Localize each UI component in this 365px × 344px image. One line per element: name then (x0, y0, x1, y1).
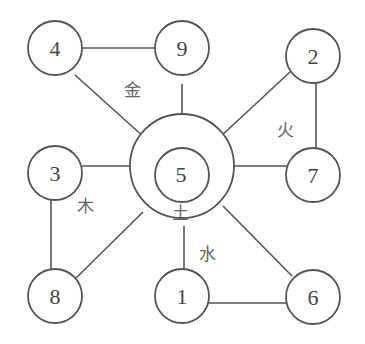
node-7: 7 (286, 148, 340, 202)
label-metal: 金 (124, 80, 141, 100)
label-wood: 木 (77, 196, 94, 216)
node-8: 8 (28, 269, 82, 323)
node-1-number: 1 (177, 284, 188, 309)
node-2: 2 (286, 29, 340, 83)
luoshu-diagram: 5 4 9 2 3 7 8 1 6 金 火 木 土 水 (0, 0, 365, 344)
label-earth: 土 (172, 203, 189, 223)
node-3-number: 3 (50, 161, 61, 186)
node-9-number: 9 (177, 36, 188, 61)
label-water: 水 (199, 244, 216, 264)
center-number: 5 (176, 162, 187, 187)
node-1: 1 (155, 269, 209, 323)
node-3: 3 (28, 146, 82, 200)
node-2-number: 2 (308, 44, 319, 69)
node-4-number: 4 (50, 36, 61, 61)
node-6: 6 (286, 270, 340, 324)
edge-8-center (76, 212, 143, 278)
node-8-number: 8 (50, 284, 61, 309)
node-4: 4 (28, 21, 82, 75)
label-fire: 火 (277, 120, 294, 140)
edge-center-6 (223, 206, 292, 276)
node-7-number: 7 (308, 163, 319, 188)
node-6-number: 6 (308, 285, 319, 310)
node-9: 9 (155, 21, 209, 75)
